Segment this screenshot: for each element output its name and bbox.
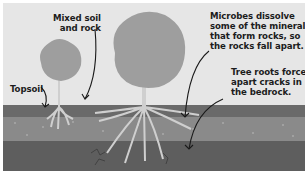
tree-roots-line-1: Tree roots force <box>231 67 305 77</box>
tree-roots-line-2: apart cracks in <box>231 77 305 87</box>
mixed-soil-label: Mixed soil and rock <box>53 13 101 33</box>
large-canopy <box>114 12 186 88</box>
mixed-soil-arrow-icon <box>85 29 96 99</box>
mixed-soil-line-1: Mixed soil <box>53 13 101 23</box>
tree-roots-label: Tree roots force apart cracks in the bed… <box>231 67 305 97</box>
tree-roots-line-3: the bedrock. <box>231 87 305 97</box>
microbes-label: Microbes dissolve some of the minerals t… <box>210 11 305 51</box>
microbes-line-4: the rocks fall apart. <box>210 41 305 51</box>
diagram-frame: Mixed soil and rock Topsoil Microbes dis… <box>3 3 305 171</box>
diagram: Mixed soil and rock Topsoil Microbes dis… <box>0 0 308 177</box>
topsoil-label: Topsoil <box>10 84 43 94</box>
microbes-line-3: that form rocks, so <box>210 31 305 41</box>
small-canopy <box>40 39 81 81</box>
microbes-line-1: Microbes dissolve <box>210 11 305 21</box>
bedrock-layer <box>3 141 305 171</box>
microbes-line-2: some of the minerals <box>210 21 305 31</box>
mixed-soil-line-2: and rock <box>53 23 101 33</box>
